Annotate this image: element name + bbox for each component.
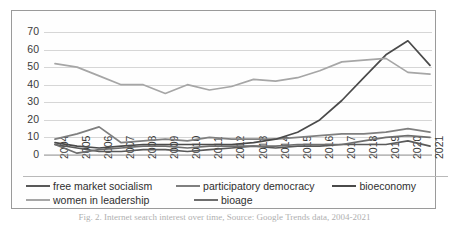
legend-label: participatory democracy: [203, 180, 314, 192]
legend-item-bioage[interactable]: bioage: [194, 194, 253, 206]
legend-item-participatory-democracy[interactable]: participatory democracy: [176, 180, 322, 192]
chart-container: 010203040506070 200420052006200720082009…: [11, 10, 436, 209]
legend-swatch-icon: [26, 185, 50, 187]
legend-label: women in leadership: [53, 194, 149, 206]
legend-item-women-in-leadership[interactable]: women in leadership: [26, 194, 184, 206]
legend-label: bioeconomy: [359, 180, 416, 192]
legend-row: women in leadershipbioage: [26, 193, 426, 207]
legend-row: free market socialismparticipatory democ…: [26, 179, 426, 193]
legend-label: free market socialism: [53, 180, 152, 192]
line-series: [55, 58, 430, 93]
legend-swatch-icon: [176, 185, 200, 187]
figure-caption: Fig. 2. Internet search interest over ti…: [0, 212, 449, 222]
chart-legend: free market socialismparticipatory democ…: [26, 179, 426, 209]
legend-swatch-icon: [194, 199, 218, 201]
legend-label: bioage: [221, 194, 253, 206]
legend-swatch-icon: [26, 199, 50, 201]
line-series: [55, 127, 430, 143]
legend-item-bioeconomy[interactable]: bioeconomy: [332, 180, 416, 192]
legend-item-free-market-socialism[interactable]: free market socialism: [26, 180, 166, 192]
legend-divider: [23, 176, 448, 177]
legend-swatch-icon: [332, 185, 356, 187]
line-series: [55, 41, 430, 148]
